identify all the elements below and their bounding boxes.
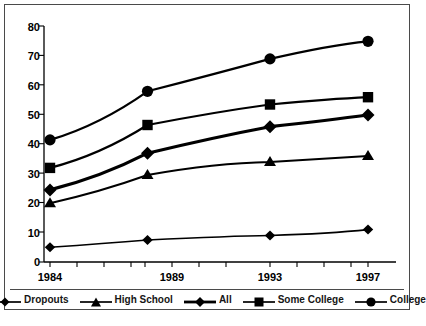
figure-caption bbox=[6, 316, 406, 325]
x-tick-label-1984: 1984 bbox=[25, 271, 75, 283]
legend-entry-college[interactable]: College bbox=[354, 294, 426, 306]
legend-label-college: College bbox=[390, 294, 426, 305]
legend-entry-dropouts[interactable]: Dropouts bbox=[0, 294, 69, 306]
chart-frame bbox=[4, 4, 410, 310]
y-tick-label-0: 0 bbox=[18, 256, 40, 268]
legend-marker-circle-icon bbox=[354, 294, 388, 306]
legend-label-dropouts: Dropouts bbox=[24, 294, 68, 305]
legend-label-all: All bbox=[219, 294, 232, 305]
legend-entry-all[interactable]: All bbox=[183, 294, 232, 306]
y-tick-label-70: 70 bbox=[18, 50, 40, 62]
y-tick-label-40: 40 bbox=[18, 138, 40, 150]
legend-marker-diamond-icon bbox=[0, 294, 22, 306]
y-tick-label-30: 30 bbox=[18, 168, 40, 180]
y-tick-label-80: 80 bbox=[18, 21, 40, 33]
x-tick-label-1997: 1997 bbox=[343, 271, 393, 283]
legend-label-high-school: High School bbox=[115, 294, 173, 305]
legend-marker-diamond-bold-icon bbox=[183, 294, 217, 306]
legend-entry-high-school[interactable]: High School bbox=[79, 294, 173, 306]
chart-legend: Dropouts High School All bbox=[10, 289, 404, 309]
y-tick-label-60: 60 bbox=[18, 80, 40, 92]
legend-marker-square-icon bbox=[242, 294, 276, 306]
y-tick-label-10: 10 bbox=[18, 227, 40, 239]
y-tick-label-20: 20 bbox=[18, 197, 40, 209]
legend-label-some-college: Some College bbox=[278, 294, 344, 305]
legend-marker-triangle-icon bbox=[79, 294, 113, 306]
y-tick-label-50: 50 bbox=[18, 109, 40, 121]
x-tick-label-1989: 1989 bbox=[147, 271, 197, 283]
legend-entry-some-college[interactable]: Some College bbox=[242, 294, 344, 306]
x-tick-label-1993: 1993 bbox=[245, 271, 295, 283]
